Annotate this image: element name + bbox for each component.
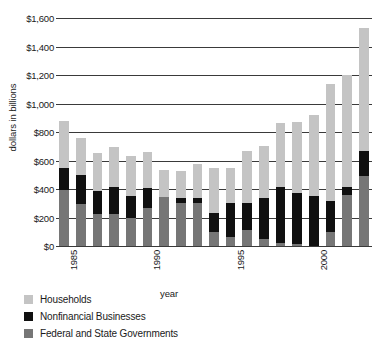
bar[interactable] — [226, 168, 236, 246]
y-axis-tick-label: $0 — [2, 241, 54, 252]
x-axis-tick-label: 1985 — [68, 250, 79, 270]
legend-item-label: Federal and State Governments — [40, 328, 178, 339]
bar-segment — [209, 232, 219, 246]
y-axis-tick-label: $1,200 — [2, 70, 54, 81]
bar-segment — [326, 232, 336, 246]
x-axis-tick-label: 2000 — [318, 250, 329, 270]
bar[interactable] — [326, 84, 336, 246]
legend-item[interactable]: Households — [24, 291, 274, 307]
bar-segment — [259, 146, 269, 198]
x-axis-tick-label: 1990 — [151, 250, 162, 270]
bar-segment — [126, 196, 136, 217]
bar-segment — [209, 213, 219, 232]
y-axis-tick-label: $1,000 — [2, 98, 54, 109]
bar-segment — [143, 152, 153, 188]
bar-segment — [59, 121, 69, 168]
bar[interactable] — [126, 156, 136, 246]
bar-segment — [276, 187, 286, 243]
bar-segment — [93, 153, 103, 191]
bar[interactable] — [242, 151, 252, 246]
bar-segment — [176, 203, 186, 246]
bar[interactable] — [309, 115, 319, 246]
bar[interactable] — [59, 121, 69, 246]
legend-item[interactable]: Nonfinancial Businesses — [24, 308, 274, 324]
bar-segment — [242, 203, 252, 230]
bar-segment — [226, 203, 236, 237]
bar-segment — [126, 218, 136, 247]
legend-swatch-icon — [24, 312, 33, 321]
bar-segment — [193, 203, 203, 246]
bar[interactable] — [359, 28, 369, 246]
bar-segment — [159, 170, 169, 197]
bar[interactable] — [159, 170, 169, 246]
bar-segment — [359, 176, 369, 246]
bar-segment — [359, 151, 369, 177]
y-axis-tick-label: $600 — [2, 155, 54, 166]
bar-segment — [309, 115, 319, 196]
bar-segment — [226, 168, 236, 203]
y-axis-tick-labels: $0$200$400$600$800$1,000$1,200$1,400$1,6… — [0, 18, 54, 246]
legend-swatch-icon — [24, 329, 33, 338]
bar[interactable] — [276, 123, 286, 246]
legend-swatch-icon — [24, 295, 33, 304]
bar-segment — [193, 164, 203, 197]
bar-segment — [342, 195, 352, 246]
x-axis-tick-label: 1995 — [235, 250, 246, 270]
legend-item[interactable]: Federal and State Governments — [24, 325, 274, 341]
y-axis-tick-label: $1,600 — [2, 13, 54, 24]
bar-segment — [292, 122, 302, 193]
y-axis-tick-label: $400 — [2, 184, 54, 195]
bar[interactable] — [259, 146, 269, 246]
bar-segment — [242, 151, 252, 202]
bar[interactable] — [176, 171, 186, 247]
y-axis-tick-label: $1,400 — [2, 41, 54, 52]
bar-segment — [93, 191, 103, 214]
bar-segment — [226, 237, 236, 246]
bar-segment — [209, 168, 219, 214]
legend-item-label: Nonfinancial Businesses — [40, 311, 146, 322]
chart-legend: HouseholdsNonfinancial BusinessesFederal… — [24, 291, 274, 341]
bar[interactable] — [292, 122, 302, 246]
bar-segment — [292, 193, 302, 244]
bar-segment — [176, 171, 186, 199]
plot-area — [56, 18, 372, 246]
x-axis-baseline — [56, 246, 372, 247]
y-axis-tick-label: $800 — [2, 127, 54, 138]
bar-segment — [109, 187, 119, 214]
stacked-bar-chart: dollars in billions $0$200$400$600$800$1… — [0, 0, 384, 341]
bar-segment — [259, 198, 269, 239]
bar-segment — [326, 84, 336, 202]
y-axis-tick-label: $200 — [2, 212, 54, 223]
legend-item-label: Households — [40, 294, 91, 305]
bar-segment — [259, 239, 269, 246]
bar-segment — [276, 123, 286, 186]
bar-segment — [76, 175, 86, 204]
bars-layer — [56, 18, 372, 246]
bar-segment — [76, 138, 86, 174]
bar-segment — [109, 147, 119, 187]
bar-segment — [159, 197, 169, 246]
bar-segment — [342, 187, 352, 196]
bar-segment — [342, 75, 352, 187]
bar[interactable] — [76, 138, 86, 246]
bar[interactable] — [342, 75, 352, 246]
bar-segment — [59, 168, 69, 191]
bar[interactable] — [143, 152, 153, 246]
bar-segment — [93, 214, 103, 246]
bar-segment — [126, 156, 136, 197]
bar[interactable] — [209, 168, 219, 246]
bar-segment — [326, 201, 336, 232]
bar-segment — [76, 204, 86, 246]
bar-segment — [143, 188, 153, 207]
bar-segment — [109, 214, 119, 246]
bar-segment — [309, 196, 319, 246]
bar-segment — [242, 230, 252, 246]
bar[interactable] — [93, 153, 103, 246]
bar-segment — [59, 190, 69, 246]
bar[interactable] — [109, 147, 119, 246]
bar[interactable] — [193, 164, 203, 246]
bar-segment — [143, 208, 153, 246]
bar-segment — [359, 28, 369, 151]
